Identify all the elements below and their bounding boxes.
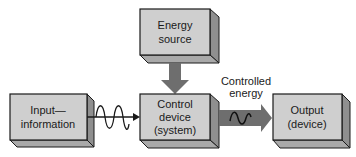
control-label-3: (system) [154, 124, 196, 136]
energy-source-label-2: source [158, 33, 191, 45]
input-label-2: information [21, 118, 75, 130]
input-to-control-arrow [87, 106, 140, 130]
control-label-1: Control [157, 98, 192, 110]
output-label-2: (device) [287, 118, 326, 130]
control-system-diagram: Energy source Input— information Control… [0, 0, 356, 157]
input-box: Input— information [10, 94, 94, 147]
input-label-1: Input— [30, 104, 65, 116]
control-to-output-arrow [219, 104, 272, 132]
output-label-1: Output [290, 104, 323, 116]
control-label-2: device [159, 111, 191, 123]
energy-to-control-arrow [161, 63, 189, 94]
control-device-box: Control device (system) [140, 94, 219, 148]
controlled-energy-label-1: Controlled [221, 75, 271, 87]
energy-source-box: Energy source [140, 9, 219, 63]
energy-source-label-1: Energy [158, 19, 193, 31]
output-box: Output (device) [273, 94, 350, 148]
controlled-energy-label-2: energy [229, 87, 263, 99]
